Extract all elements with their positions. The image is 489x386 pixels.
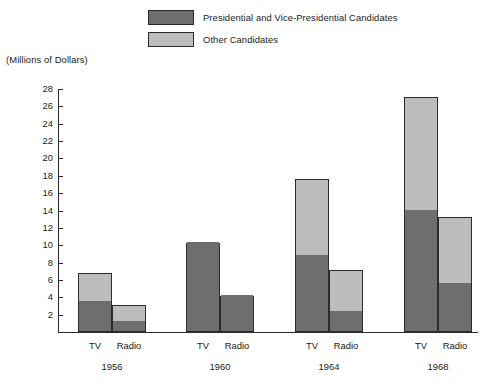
- segment-presidential-candidates: [439, 283, 471, 331]
- y-tick-label-26: 26: [19, 100, 53, 111]
- y-tick-label-28: 28: [19, 83, 53, 94]
- y-tick-label-4: 4: [19, 291, 53, 302]
- segment-presidential-candidates: [405, 210, 437, 331]
- y-tick-4: [58, 297, 63, 298]
- y-tick-22: [58, 141, 63, 142]
- segment-presidential-candidates: [79, 301, 111, 331]
- year-label-1968: 1968: [398, 361, 478, 372]
- category-label-1956-radio: Radio: [106, 340, 152, 351]
- y-tick-28: [58, 89, 63, 90]
- y-tick-16: [58, 193, 63, 194]
- bar-1964-radio: [329, 270, 363, 332]
- y-tick-label-6: 6: [19, 274, 53, 285]
- segment-presidential-candidates: [221, 295, 253, 331]
- y-tick-14: [58, 211, 63, 212]
- segment-presidential-candidates: [296, 255, 328, 331]
- bar-1968-tv: [404, 97, 438, 332]
- y-tick-label-10: 10: [19, 239, 53, 250]
- bar-chart: Presidential and Vice-Presidential Candi…: [0, 0, 489, 386]
- segment-presidential-candidates: [330, 311, 362, 331]
- year-label-1956: 1956: [72, 361, 152, 372]
- year-label-1960: 1960: [180, 361, 260, 372]
- y-tick-label-8: 8: [19, 257, 53, 268]
- bar-1956-radio: [112, 305, 146, 332]
- plot-area: 246810121416182022242628 TVRadioTVRadioT…: [0, 0, 489, 386]
- segment-other-candidates: [296, 180, 328, 256]
- segment-presidential-candidates: [113, 321, 145, 331]
- y-tick-label-14: 14: [19, 205, 53, 216]
- x-axis-line: [58, 332, 478, 333]
- chart-footnote: [4, 379, 474, 386]
- segment-other-candidates: [330, 271, 362, 313]
- y-tick-label-2: 2: [19, 309, 53, 320]
- y-tick-label-16: 16: [19, 187, 53, 198]
- y-tick-10: [58, 245, 63, 246]
- category-label-1968-radio: Radio: [432, 340, 478, 351]
- y-tick-18: [58, 176, 63, 177]
- category-label-1964-radio: Radio: [323, 340, 369, 351]
- y-tick-label-22: 22: [19, 135, 53, 146]
- bar-1960-radio: [220, 296, 254, 332]
- bar-1960-tv: [186, 243, 220, 332]
- segment-other-candidates: [439, 218, 471, 285]
- y-tick-2: [58, 315, 63, 316]
- y-tick-20: [58, 158, 63, 159]
- y-tick-24: [58, 124, 63, 125]
- bar-1956-tv: [78, 273, 112, 332]
- bar-1968-radio: [438, 217, 472, 332]
- bar-1964-tv: [295, 179, 329, 332]
- y-tick-label-12: 12: [19, 222, 53, 233]
- y-tick-label-24: 24: [19, 118, 53, 129]
- segment-other-candidates: [79, 274, 111, 303]
- segment-other-candidates: [405, 98, 437, 213]
- y-tick-8: [58, 263, 63, 264]
- category-label-1960-radio: Radio: [214, 340, 260, 351]
- segment-presidential-candidates: [187, 242, 219, 331]
- y-tick-12: [58, 228, 63, 229]
- y-tick-label-18: 18: [19, 170, 53, 181]
- year-label-1964: 1964: [289, 361, 369, 372]
- y-tick-6: [58, 280, 63, 281]
- y-tick-label-20: 20: [19, 152, 53, 163]
- y-tick-26: [58, 106, 63, 107]
